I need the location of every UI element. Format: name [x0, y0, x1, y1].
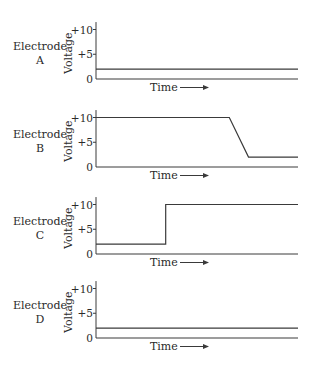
y-tick-label: +10 [71, 112, 93, 124]
electrode-label: Electrode [13, 215, 67, 228]
electrode-voltage-figure: ElectrodeAVoltage0+5+10TimeElectrodeBVol… [0, 0, 317, 370]
electrode-label: Electrode [13, 40, 67, 53]
panel-electrode-a: ElectrodeAVoltage0+5+10Time [13, 22, 298, 94]
y-tick-label: +5 [78, 136, 93, 148]
panel-electrode-b: ElectrodeBVoltage0+5+10Time [13, 110, 298, 182]
x-axis-label: Time [150, 169, 178, 182]
panel-electrode-d: ElectrodeDVoltage0+5+10Time [13, 281, 298, 353]
y-tick-label: +5 [78, 223, 93, 235]
time-arrow-icon [203, 260, 209, 265]
y-axis-label: Voltage [62, 291, 75, 334]
x-axis-label: Time [150, 81, 178, 94]
y-axis-label: Voltage [62, 207, 75, 250]
y-tick-label: 0 [86, 161, 93, 173]
time-arrow-icon [203, 173, 209, 178]
y-tick-label: +10 [71, 199, 93, 211]
electrode-label: Electrode [13, 128, 67, 141]
panel-electrode-c: ElectrodeCVoltage0+5+10Time [13, 197, 298, 269]
y-tick-label: 0 [86, 332, 93, 344]
electrode-letter: A [35, 54, 45, 67]
y-tick-label: 0 [86, 73, 93, 85]
y-tick-label: +5 [78, 307, 93, 319]
y-tick-label: +5 [78, 48, 93, 60]
y-tick-label: +10 [71, 24, 93, 36]
x-axis-label: Time [150, 340, 178, 353]
y-axis-label: Voltage [62, 120, 75, 163]
electrode-letter: B [36, 142, 44, 155]
y-tick-label: 0 [86, 248, 93, 260]
y-axis-label: Voltage [62, 32, 75, 75]
time-arrow-icon [203, 85, 209, 90]
electrode-letter: D [36, 313, 45, 326]
y-tick-label: +10 [71, 283, 93, 295]
time-arrow-icon [203, 344, 209, 349]
x-axis-label: Time [150, 256, 178, 269]
electrode-label: Electrode [13, 299, 67, 312]
electrode-letter: C [36, 229, 44, 242]
voltage-trace [96, 205, 298, 245]
voltage-trace [96, 118, 298, 158]
